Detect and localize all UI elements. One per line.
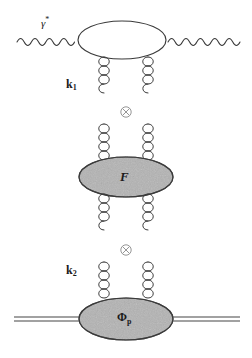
two-gluon-exchange-lower <box>99 262 154 298</box>
two-gluon-exchange-upper <box>99 57 154 93</box>
gluon-momentum-label-k2-subscript: 2 <box>73 269 77 278</box>
gluon-momentum-label-k1-text: k <box>66 77 73 91</box>
wavy-photon-line-incoming <box>17 39 75 46</box>
gluon-momentum-label-k2-text: k <box>66 263 73 277</box>
bottom-blob-label: Φp <box>117 311 131 323</box>
convolution-operator-lower <box>121 245 131 255</box>
bottom-blob-label-text: Φ <box>117 310 127 324</box>
gluon-momentum-label-k1: k1 <box>66 78 77 90</box>
feynman-diagram-root: γ* k1 k2 F Φp <box>0 0 252 358</box>
photon-label: γ* <box>41 16 49 29</box>
wavy-photon-line-outgoing <box>168 39 240 46</box>
photon-label-superscript: * <box>45 15 49 24</box>
bottom-blob-label-subscript: p <box>127 317 131 326</box>
two-gluon-exchange-middle-lower <box>99 194 154 230</box>
gluon-momentum-label-k1-subscript: 1 <box>73 83 77 92</box>
gluon-momentum-label-k2: k2 <box>66 264 77 276</box>
convolution-operator-upper <box>121 107 131 117</box>
two-gluon-exchange-middle-upper <box>99 124 154 160</box>
photon-impact-factor-ellipse <box>78 21 166 59</box>
middle-blob-label: F <box>120 170 129 183</box>
